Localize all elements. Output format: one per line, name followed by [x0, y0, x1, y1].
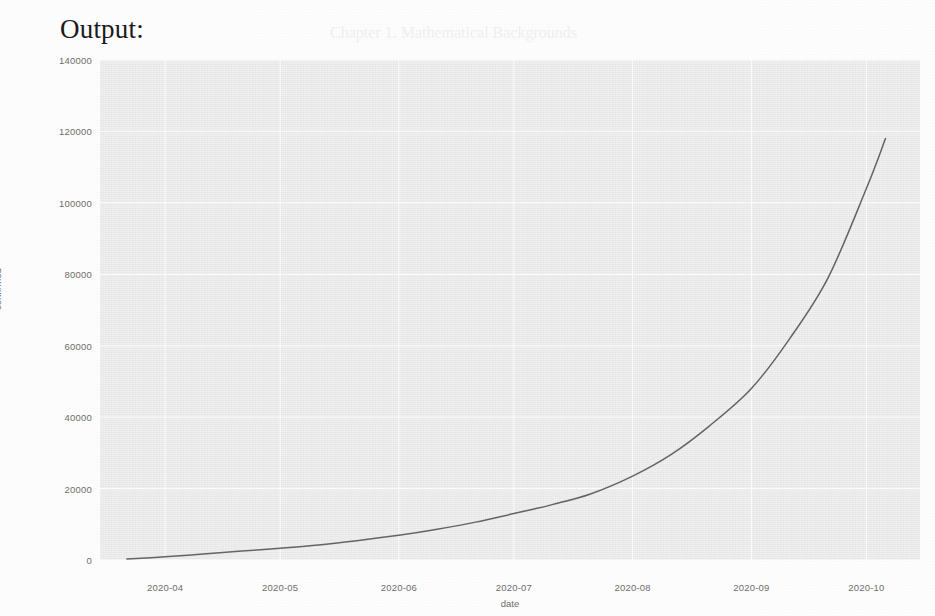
y-tick-label: 0 [0, 555, 92, 566]
plot-area [100, 60, 920, 560]
confirmed-cases-line-chart: 020000400006000080000100000120000140000 … [0, 0, 935, 616]
vertical-gridlines [165, 60, 866, 560]
confirmed-series-line [127, 139, 886, 559]
x-tick-label: 2020-09 [733, 582, 769, 593]
y-tick-label: 80000 [0, 269, 92, 280]
y-tick-label: 20000 [0, 483, 92, 494]
y-tick-label: 40000 [0, 412, 92, 423]
x-tick-label: 2020-06 [381, 582, 417, 593]
y-axis-tick-labels: 020000400006000080000100000120000140000 [0, 0, 92, 616]
x-tick-label: 2020-08 [614, 582, 650, 593]
y-tick-label: 140000 [0, 55, 92, 66]
x-tick-label: 2020-10 [848, 582, 884, 593]
x-axis-label: date [501, 598, 520, 609]
x-tick-label: 2020-07 [496, 582, 532, 593]
x-tick-label: 2020-04 [147, 582, 183, 593]
y-tick-label: 120000 [0, 126, 92, 137]
plot-svg [100, 60, 920, 560]
y-tick-label: 100000 [0, 197, 92, 208]
y-tick-label: 60000 [0, 340, 92, 351]
horizontal-gridlines [100, 60, 920, 560]
y-axis-label: confirmed [0, 268, 3, 310]
x-tick-label: 2020-05 [262, 582, 298, 593]
